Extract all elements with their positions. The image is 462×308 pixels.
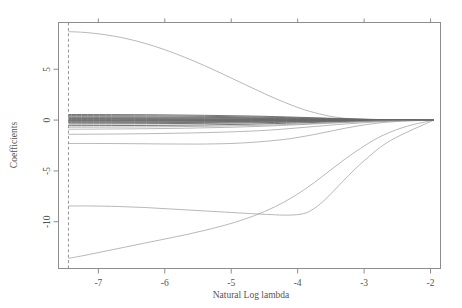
x-axis-ticks-group: -7-6-5-4-3-2 xyxy=(94,269,434,288)
y-axis-title: Coefficients xyxy=(9,122,19,169)
x-tick-label-2: -5 xyxy=(227,278,235,288)
y-tick-label-1: 0 xyxy=(43,117,53,122)
y-tick-label-2: -5 xyxy=(43,167,53,175)
top-axis-ticks-group xyxy=(98,19,430,23)
coefficient-path-3 xyxy=(68,120,433,215)
x-tick-label-5: -2 xyxy=(427,278,435,288)
coefficient-path-1 xyxy=(68,32,433,120)
x-tick-label-4: -3 xyxy=(360,278,368,288)
y-tick-label-3: -10 xyxy=(43,215,53,228)
lasso-coefficient-path-chart: -7-6-5-4-3-2 50-5-10 Natural Log lambda … xyxy=(0,0,462,308)
coefficient-path-2 xyxy=(68,120,433,258)
y-axis-ticks-group: 50-5-10 xyxy=(43,67,59,228)
y-tick-label-0: 5 xyxy=(43,67,53,72)
x-tick-label-0: -7 xyxy=(94,278,102,288)
x-tick-label-3: -4 xyxy=(294,278,302,288)
coefficient-path-figure: -7-6-5-4-3-2 50-5-10 Natural Log lambda … xyxy=(0,0,462,308)
x-tick-label-1: -6 xyxy=(161,278,169,288)
coefficient-paths-group xyxy=(68,32,433,259)
x-axis-title: Natural Log lambda xyxy=(213,290,290,300)
